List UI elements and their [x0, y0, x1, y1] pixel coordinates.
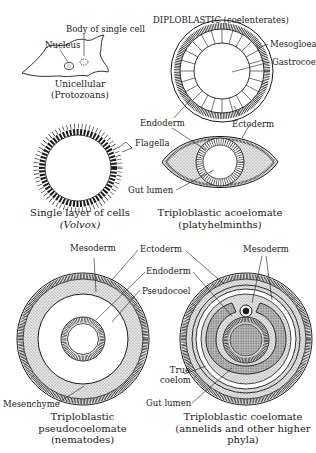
label-nucleus: Nucleus: [45, 40, 80, 50]
label-endoderm-pseudo: Endoderm: [146, 266, 191, 276]
caption-line: (platyhelminths): [155, 219, 285, 231]
label-gut-lumen: Gut lumen: [128, 185, 173, 195]
label-mesogloea: Mesogloea: [270, 39, 316, 49]
caption-line: pseudocoelomate: [25, 423, 140, 435]
label-ectoderm: Ectoderm: [232, 119, 274, 129]
label-endoderm: Endoderm: [140, 118, 185, 128]
caption-line: (Volvox): [25, 219, 135, 231]
label-body-of-single-cell: Body of single cell: [66, 24, 145, 34]
label-gut-lumen-coelomate: Gut lumen: [146, 398, 191, 408]
body-plans-diagram: Body of single cell Nucleus Unicellular …: [0, 0, 316, 453]
caption-pseudocoelomate: Triploblastic pseudocoelomate (nematodes…: [25, 411, 140, 446]
caption-line: Unicellular: [40, 79, 120, 90]
acoelomate-section: [162, 124, 278, 190]
caption-line: phyla): [168, 434, 316, 446]
caption-unicellular: Unicellular (Protozoans): [40, 79, 120, 101]
label-flagella: Flagella: [135, 138, 170, 148]
label-line: True: [160, 365, 190, 375]
caption-line: Single layer of cells: [25, 207, 135, 219]
caption-volvox: Single layer of cells (Volvox): [25, 207, 135, 230]
caption-line: Triploblastic acoelomate: [155, 207, 285, 219]
caption-line: (Protozoans): [40, 90, 120, 101]
diploblastic-section: [171, 20, 273, 122]
coelomate-section: [180, 251, 312, 405]
label-mesoderm-coelomate: Mesoderm: [243, 244, 289, 254]
label-mesenchyme: Mesenchyme: [3, 399, 60, 409]
label-mesoderm-pseudo: Mesoderm: [70, 243, 116, 253]
caption-line: Triploblastic: [25, 411, 140, 423]
caption-line: (annelids and other higher: [168, 423, 316, 435]
caption-line: (nematodes): [25, 434, 140, 446]
title-diploblastic: DIPLOBLASTIC (coelenterates): [153, 15, 289, 25]
caption-coelomate: Triploblastic coelomate (annelids and ot…: [168, 411, 316, 446]
label-true-coelom: True coelom: [160, 365, 190, 385]
label-ectoderm-pseudo: Ectoderm: [140, 244, 182, 254]
label-line: coelom: [160, 375, 190, 385]
volvox-sphere: [36, 126, 132, 210]
caption-line: Triploblastic coelomate: [168, 411, 316, 423]
pseudocoelomate-section: [17, 250, 149, 405]
label-gastrocoel: Gastrocoel: [272, 57, 316, 67]
caption-acoelomate: Triploblastic acoelomate (platyhelminths…: [155, 207, 285, 230]
label-pseudocoel: Pseudocoel: [142, 286, 191, 296]
